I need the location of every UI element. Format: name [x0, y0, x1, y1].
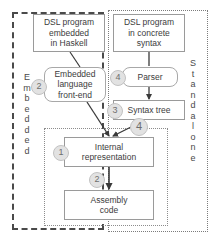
region-label-standalone-letter: e	[186, 153, 200, 164]
node-line: Internal	[95, 142, 123, 152]
node-line: embedded	[49, 28, 89, 38]
step-badge-frontend: 2	[31, 79, 47, 95]
region-label-standalone-letter: a	[186, 111, 200, 122]
node-assembly-code[interactable]: Assembly code	[64, 190, 154, 220]
region-label-embedded-letter: e	[20, 135, 34, 146]
node-line: code	[100, 205, 118, 215]
region-label-standalone-letter: t	[186, 69, 200, 80]
node-line: representation	[82, 152, 136, 162]
region-label-standalone-letter: n	[186, 90, 200, 101]
node-line: DSL program	[44, 17, 94, 27]
node-line: DSL program	[124, 17, 174, 27]
node-line: Parser	[125, 72, 175, 83]
node-line: syntax	[137, 38, 162, 48]
node-dsl-program-embedded-in-haskell[interactable]: DSL program embedded in Haskell	[33, 14, 105, 52]
step-badge-codegen: 2	[89, 172, 105, 188]
node-embedded-language-front-end[interactable]: Embedded language front-end	[44, 67, 106, 102]
region-label-standalone-letter: o	[186, 132, 200, 143]
node-line: Assembly	[91, 195, 128, 205]
node-internal-representation[interactable]: Internal representation	[64, 137, 154, 167]
node-line: language	[58, 79, 93, 89]
step-badge-lowering: 4	[130, 118, 148, 136]
region-label-embedded-letter: e	[20, 104, 34, 115]
region-label-embedded-letter: d	[20, 146, 34, 157]
node-syntax-tree[interactable]: Syntax tree	[113, 100, 185, 120]
region-label-standalone: S t a n d a l o n e	[186, 58, 200, 163]
region-label-embedded-letter: b	[20, 93, 34, 104]
node-dsl-program-in-concrete-syntax[interactable]: DSL program in concrete syntax	[113, 14, 185, 52]
step-badge-syntax-tree: 3	[107, 103, 123, 119]
node-parser[interactable]: Parser	[122, 67, 178, 87]
region-label-standalone-letter: d	[186, 100, 200, 111]
node-line: Syntax tree	[116, 105, 182, 116]
region-label-standalone-letter: S	[186, 58, 200, 69]
node-line: Embedded	[54, 69, 95, 79]
diagram-canvas: E m b e d d e d S t a n d a l o n e	[0, 0, 213, 241]
region-label-standalone-letter: l	[186, 121, 200, 132]
region-label-embedded-letter: d	[20, 114, 34, 125]
node-line: front-end	[58, 90, 92, 100]
region-label-standalone-letter: n	[186, 142, 200, 153]
node-line: in Haskell	[51, 38, 88, 48]
step-badge-parser: 4	[110, 70, 126, 86]
region-label-standalone-letter: a	[186, 79, 200, 90]
step-badge-internal-representation: 1	[53, 145, 69, 161]
region-label-embedded-letter: d	[20, 125, 34, 136]
node-line: in concrete	[128, 28, 170, 38]
